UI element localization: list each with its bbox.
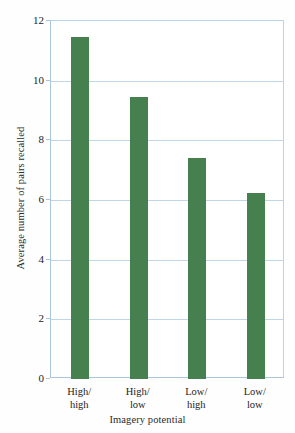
y-tick-label: 2 <box>6 313 44 324</box>
y-tick-label: 12 <box>6 15 44 26</box>
plot-area <box>50 20 284 378</box>
x-tick-label-line: High/ <box>47 386 111 399</box>
bar <box>71 37 89 379</box>
y-axis-title: Average number of pairs recalled <box>13 98 29 298</box>
bar <box>188 158 206 379</box>
x-tick-label-line: Low/ <box>164 386 228 399</box>
y-tick-mark <box>46 378 50 379</box>
y-tick-label: 0 <box>6 373 44 384</box>
bar <box>247 193 265 379</box>
x-tick-label: Low/low <box>223 386 287 411</box>
x-axis-title: Imagery potential <box>0 414 295 425</box>
y-tick-label: 10 <box>6 74 44 85</box>
x-tick-label-line: high <box>164 399 228 412</box>
x-tick-label-line: High/ <box>106 386 170 399</box>
x-tick-label-line: low <box>106 399 170 412</box>
bar <box>130 97 148 379</box>
x-tick-label: High/high <box>47 386 111 411</box>
chart-figure: Average number of pairs recalled 0246810… <box>0 0 295 433</box>
x-tick-label-line: high <box>47 399 111 412</box>
x-tick-label-line: low <box>223 399 287 412</box>
x-tick-label: Low/high <box>164 386 228 411</box>
x-tick-label-line: Low/ <box>223 386 287 399</box>
x-tick-label: High/low <box>106 386 170 411</box>
